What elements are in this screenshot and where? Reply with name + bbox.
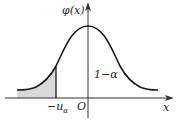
- region-label: 1−α: [94, 69, 118, 80]
- shaded-tail-region: [17, 66, 56, 98]
- origin-label: O: [77, 101, 86, 112]
- critical-value-label: −uα: [47, 101, 68, 115]
- critical-value-subscript: α: [63, 107, 68, 115]
- x-axis-label: x: [163, 102, 169, 113]
- critical-value-prefix: −u: [47, 100, 63, 113]
- y-axis-label: φ(x): [62, 5, 85, 16]
- normal-density-diagram: [0, 0, 178, 127]
